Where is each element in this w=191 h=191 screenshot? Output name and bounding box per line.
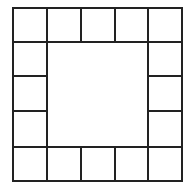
grid-cell — [12, 7, 48, 43]
grid-cell — [147, 7, 183, 43]
grid-cell — [147, 75, 183, 112]
grid-cell — [12, 75, 48, 112]
grid-cell — [46, 7, 82, 43]
center-square — [46, 41, 149, 148]
ring-grid-diagram — [0, 0, 191, 191]
grid-cell — [114, 146, 149, 182]
grid-cell — [147, 110, 183, 148]
grid-cell — [12, 41, 48, 77]
grid-cell — [80, 7, 116, 43]
grid-cell — [80, 146, 116, 182]
grid-cell — [114, 7, 149, 43]
grid-cell — [147, 41, 183, 77]
grid-cell — [147, 146, 183, 182]
grid-cell — [46, 146, 82, 182]
grid-cell — [12, 146, 48, 182]
grid-cell — [12, 110, 48, 148]
